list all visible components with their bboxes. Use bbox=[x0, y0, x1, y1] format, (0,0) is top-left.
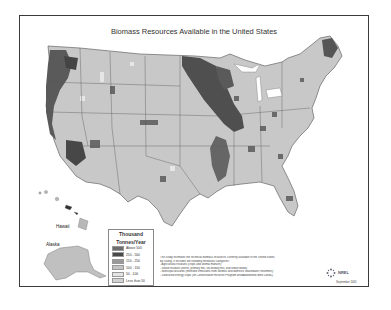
footer-date: September 2005 bbox=[336, 280, 357, 284]
legend-item: Less than 50 bbox=[112, 278, 153, 285]
legend-swatch bbox=[112, 252, 124, 257]
legend: Thousand Tonnes/Year Above 500 250 - 500… bbox=[108, 229, 154, 286]
nrel-logo-icon bbox=[326, 268, 336, 278]
description-line: - Dedicated energy crops (on Conservatio… bbox=[160, 274, 320, 278]
legend-label: Above 500 bbox=[126, 246, 142, 250]
legend-swatch bbox=[112, 265, 124, 270]
legend-label: 50 - 100 bbox=[126, 272, 138, 276]
legend-label: 150 - 250 bbox=[126, 259, 140, 263]
map-frame: Biomass Resources Available in the Unite… bbox=[19, 15, 369, 287]
legend-label: 250 - 500 bbox=[126, 253, 140, 257]
legend-swatch bbox=[112, 272, 124, 277]
alaska-shape bbox=[44, 246, 106, 280]
legend-swatch bbox=[112, 259, 124, 264]
nrel-logo-text: NREL bbox=[338, 270, 349, 275]
us-biomass-map bbox=[20, 16, 370, 288]
legend-label: Less than 50 bbox=[126, 279, 145, 283]
legend-label: 100 - 150 bbox=[126, 266, 140, 270]
legend-swatch bbox=[112, 278, 124, 283]
legend-swatch bbox=[112, 246, 124, 251]
legend-title-line1: Thousand bbox=[109, 232, 153, 238]
alaska-label: Alaska bbox=[46, 242, 60, 247]
description-text: This study estimates the technical bioma… bbox=[160, 256, 320, 278]
hawaii-label: Hawaii bbox=[56, 224, 70, 229]
